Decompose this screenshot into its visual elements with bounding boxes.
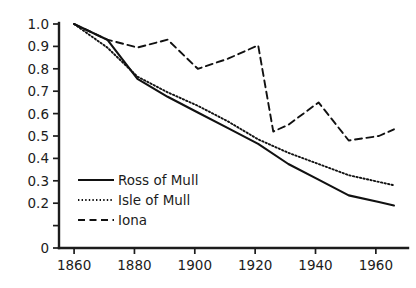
- y-tick-label: 0.9: [28, 38, 49, 54]
- y-tick-label: 0.4: [28, 150, 49, 166]
- y-tick-label: 0.8: [28, 61, 49, 77]
- series-line-iona: [74, 24, 394, 140]
- legend-label: Ross of Mull: [118, 172, 198, 188]
- y-axis: 00.20.30.40.50.60.70.80.91.0: [28, 16, 59, 256]
- y-tick-label: 1.0: [28, 16, 49, 32]
- x-tick-label: 1920: [238, 257, 272, 273]
- x-tick-label: 1880: [117, 257, 151, 273]
- x-tick-label: 1900: [178, 257, 212, 273]
- legend-label: Iona: [118, 212, 147, 228]
- chart-container: 00.20.30.40.50.60.70.80.91.0 18601880190…: [0, 0, 416, 288]
- line-chart: 00.20.30.40.50.60.70.80.91.0 18601880190…: [0, 0, 416, 288]
- y-tick-label: 0.6: [28, 106, 49, 122]
- series-line-isle-of-mull: [74, 24, 394, 185]
- y-tick-label: 0.3: [28, 173, 49, 189]
- y-tick-label: 0.2: [28, 195, 49, 211]
- y-tick-label: 0.5: [28, 128, 49, 144]
- y-tick-label: 0.7: [28, 83, 49, 99]
- x-tick-label: 1860: [57, 257, 91, 273]
- y-tick-label: 0: [40, 240, 49, 256]
- x-axis: 186018801900192019401960: [57, 248, 408, 273]
- chart-legend: Ross of MullIsle of MullIona: [78, 172, 198, 228]
- x-tick-label: 1940: [298, 257, 332, 273]
- x-tick-label: 1960: [359, 257, 393, 273]
- legend-label: Isle of Mull: [118, 192, 190, 208]
